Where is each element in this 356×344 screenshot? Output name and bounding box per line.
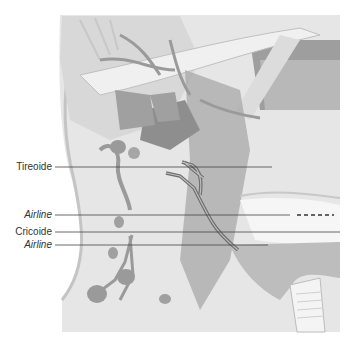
lymph-node (117, 269, 135, 285)
lymph-node (108, 247, 118, 259)
lymph-node (110, 140, 126, 154)
lymph-node (87, 285, 107, 303)
lymph-node (128, 147, 140, 159)
label-airline-1: Airline (24, 209, 52, 221)
lymph-node (114, 216, 124, 228)
lymph-node (159, 294, 171, 304)
label-tireoide: Tireoide (16, 161, 52, 173)
neck-anatomy-illustration (0, 0, 356, 344)
label-airline-2: Airline (24, 239, 52, 251)
larynx-region (240, 198, 340, 244)
label-cricoide: Cricoide (15, 226, 52, 238)
